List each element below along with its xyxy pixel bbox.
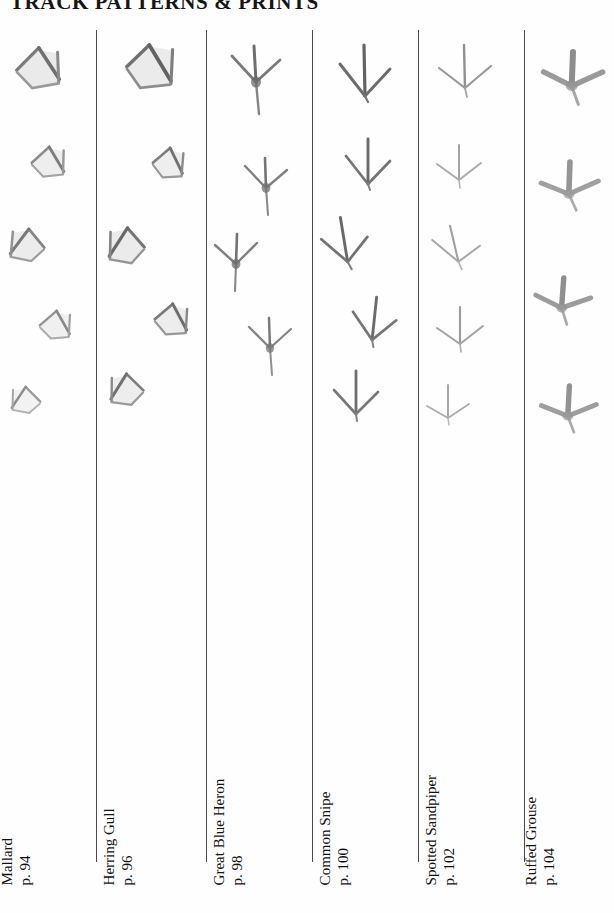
column-great-blue-heron: Great Blue Heron p. 98 xyxy=(206,0,312,913)
species-page-ref: p. 98 xyxy=(228,655,246,885)
track-area-herring-gull xyxy=(96,36,206,456)
species-name: Herring Gull xyxy=(101,655,119,885)
track-print xyxy=(422,382,474,430)
track-print xyxy=(424,218,488,279)
column-mallard: Mallard p. 94 xyxy=(0,0,96,913)
caption-ruffed-grouse: Ruffed Grouse p. 104 xyxy=(523,655,558,885)
species-name: Common Snipe xyxy=(317,655,335,885)
track-print xyxy=(96,220,156,276)
track-print xyxy=(147,298,198,345)
track-print xyxy=(4,38,73,104)
track-print xyxy=(334,42,396,104)
track-print xyxy=(328,368,384,424)
caption-great-blue-heron: Great Blue Heron p. 98 xyxy=(211,655,246,885)
track-print xyxy=(244,316,296,378)
track-print xyxy=(535,159,605,219)
track-print xyxy=(432,304,488,356)
species-name: Great Blue Heron xyxy=(211,655,229,885)
species-page-ref: p. 96 xyxy=(118,655,136,885)
track-print xyxy=(99,367,153,417)
column-spotted-sandpiper: Spotted Sandpiper p. 102 xyxy=(418,0,524,913)
track-columns: Mallard p. 94 xyxy=(0,0,614,913)
track-print xyxy=(32,304,79,350)
track-area-mallard xyxy=(0,36,96,456)
species-page-ref: p. 94 xyxy=(16,655,34,885)
column-common-snipe: Common Snipe p. 100 xyxy=(312,0,418,913)
track-print xyxy=(527,273,598,336)
track-print xyxy=(343,291,405,353)
track-area-common-snipe xyxy=(312,36,418,456)
caption-spotted-sandpiper: Spotted Sandpiper p. 102 xyxy=(423,655,458,885)
track-area-great-blue-heron xyxy=(206,36,312,456)
species-name: Mallard xyxy=(0,655,16,885)
track-print xyxy=(1,379,49,426)
column-ruffed-grouse: Ruffed Grouse p. 104 xyxy=(524,0,614,913)
track-print xyxy=(240,156,292,218)
track-print xyxy=(226,44,286,118)
caption-mallard: Mallard p. 94 xyxy=(0,655,34,885)
track-area-spotted-sandpiper xyxy=(418,36,524,456)
track-print xyxy=(312,210,378,276)
track-print xyxy=(535,382,604,441)
track-print xyxy=(432,142,486,192)
track-print xyxy=(210,232,262,294)
species-page-ref: p. 102 xyxy=(440,655,458,885)
species-page-ref: p. 100 xyxy=(334,655,352,885)
track-print xyxy=(340,136,396,192)
species-name: Ruffed Grouse xyxy=(523,655,541,885)
caption-herring-gull: Herring Gull p. 96 xyxy=(101,655,136,885)
track-print xyxy=(536,48,610,115)
track-print xyxy=(145,143,193,187)
species-page-ref: p. 104 xyxy=(540,655,558,885)
field-guide-page: TRACK PATTERNS & PRINTS xyxy=(0,0,614,913)
track-print xyxy=(0,219,56,274)
species-name: Spotted Sandpiper xyxy=(423,655,441,885)
caption-common-snipe: Common Snipe p. 100 xyxy=(317,655,352,885)
track-print xyxy=(116,38,186,102)
track-print xyxy=(23,140,75,189)
track-area-ruffed-grouse xyxy=(524,36,614,456)
column-herring-gull: Herring Gull p. 96 xyxy=(96,0,206,913)
track-print xyxy=(434,42,496,100)
